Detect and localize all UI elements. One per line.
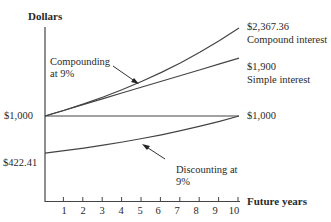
x-ticks [63, 197, 238, 202]
end-compound-name: Compound interest [247, 34, 327, 46]
annotation-discounting-line1: Discounting at [176, 164, 238, 176]
x-tick-label: 4 [114, 205, 128, 216]
discounting-arrow [142, 144, 165, 159]
end-compound-value: $2,367.36 [247, 21, 289, 33]
end-simple-value: $1,900 [247, 61, 276, 73]
discounting-line [45, 116, 239, 153]
x-axis-label: Future years [247, 195, 307, 207]
annotation-compounding-line1: Compounding [50, 56, 110, 68]
start-label-1000: $1,000 [4, 110, 33, 122]
end-simple-name: Simple interest [247, 74, 310, 86]
x-tick-label: 10 [227, 205, 241, 216]
x-tick-label: 7 [170, 205, 184, 216]
x-tick-label: 5 [133, 205, 147, 216]
y-axis-label: Dollars [28, 10, 62, 22]
x-tick-label: 3 [95, 205, 109, 216]
x-tick-label: 2 [76, 205, 90, 216]
end-constant-value: $1,000 [247, 110, 276, 122]
x-tick-label: 1 [57, 205, 71, 216]
x-tick-label: 8 [189, 205, 203, 216]
x-tick-label: 9 [208, 205, 222, 216]
start-label-422: $422.41 [3, 157, 37, 169]
annotation-discounting-line2: 9% [176, 176, 190, 188]
x-tick-label: 6 [151, 205, 165, 216]
compounding-arrow [113, 66, 139, 84]
annotation-compounding-line2: at 9% [50, 68, 74, 80]
